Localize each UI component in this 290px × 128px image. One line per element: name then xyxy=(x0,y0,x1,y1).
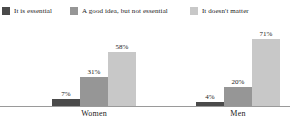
legend-item-essential: It is essential xyxy=(2,7,52,15)
bar-women-essential: 7% xyxy=(52,22,80,106)
bar-rect-men-good-idea xyxy=(224,87,252,106)
bar-value-men-doesnt-matter: 71% xyxy=(259,30,272,38)
bar-rect-women-good-idea xyxy=(80,77,108,106)
bar-rect-women-doesnt-matter xyxy=(108,52,136,106)
legend-item-good-idea: A good idea, but not essential xyxy=(70,7,168,15)
chart-legend: It is essential A good idea, but not ess… xyxy=(0,0,290,22)
bar-value-women-essential: 7% xyxy=(61,90,71,98)
bar-value-men-essential: 4% xyxy=(205,93,215,101)
group-label-women: Women xyxy=(52,109,136,118)
legend-swatch-doesnt-matter xyxy=(190,7,198,15)
legend-item-doesnt-matter: It doesn't matter xyxy=(190,7,249,15)
group-label-men: Men xyxy=(196,109,280,118)
bar-value-women-doesnt-matter: 58% xyxy=(115,43,128,51)
axis-baseline xyxy=(0,106,290,107)
bars-women: 7% 31% 58% xyxy=(52,22,136,106)
legend-label-good-idea: A good idea, but not essential xyxy=(82,7,168,15)
legend-swatch-essential xyxy=(2,7,10,15)
bar-rect-men-doesnt-matter xyxy=(252,39,280,106)
bars-men: 4% 20% 71% xyxy=(196,22,280,106)
plot-area: 7% 31% 58% 4% 20% xyxy=(0,22,290,106)
bar-women-doesnt-matter: 58% xyxy=(108,22,136,106)
bar-rect-women-essential xyxy=(52,99,80,106)
bar-men-doesnt-matter: 71% xyxy=(252,22,280,106)
bar-value-men-good-idea: 20% xyxy=(231,78,244,86)
bar-men-essential: 4% xyxy=(196,22,224,106)
bar-chart: It is essential A good idea, but not ess… xyxy=(0,0,290,128)
bar-men-good-idea: 20% xyxy=(224,22,252,106)
legend-label-essential: It is essential xyxy=(14,7,52,15)
bar-value-women-good-idea: 31% xyxy=(87,68,100,76)
legend-swatch-good-idea xyxy=(70,7,78,15)
legend-label-doesnt-matter: It doesn't matter xyxy=(202,7,249,15)
bar-women-good-idea: 31% xyxy=(80,22,108,106)
